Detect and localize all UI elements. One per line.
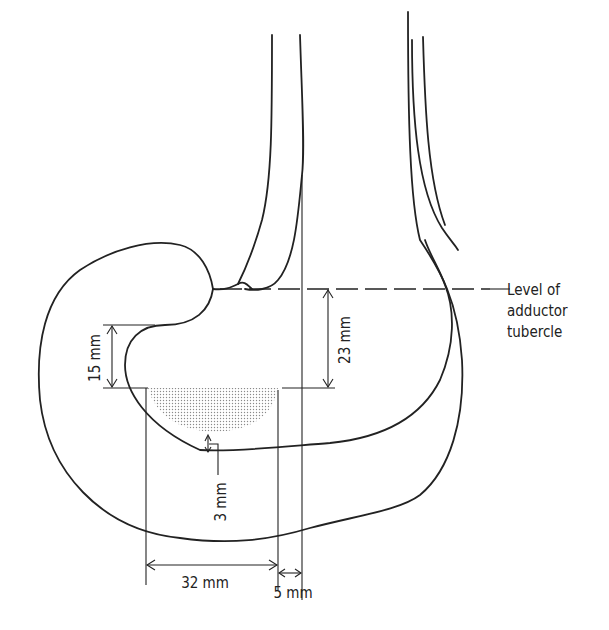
label-23mm: 23 mm — [336, 316, 354, 364]
shaded-notch-region — [148, 388, 278, 432]
label-32mm: 32 mm — [181, 574, 229, 592]
dimension-3mm-arrow — [205, 435, 218, 475]
dimension-15mm-arrow — [107, 326, 117, 387]
shaft-inner-line — [245, 35, 303, 290]
label-15mm: 15 mm — [86, 334, 104, 382]
dimension-23mm-arrow — [323, 290, 333, 387]
femur-measurement-diagram: 15 mm 23 mm 3 mm 32 mm 5 mm Level of add… — [0, 0, 609, 630]
outer-condyle-outline — [39, 12, 463, 541]
label-tubercle: tubercle — [507, 323, 562, 341]
label-adductor: adductor — [507, 302, 568, 320]
shaft-right-line-2 — [423, 37, 445, 225]
label-3mm: 3 mm — [212, 482, 230, 521]
shaft-right-line-1 — [412, 40, 458, 250]
label-5mm: 5 mm — [273, 584, 312, 602]
dimension-32mm-arrow — [147, 560, 277, 570]
label-level-of: Level of — [507, 281, 561, 299]
dimension-5mm-arrow — [279, 569, 301, 577]
shaft-left-line — [238, 35, 272, 284]
